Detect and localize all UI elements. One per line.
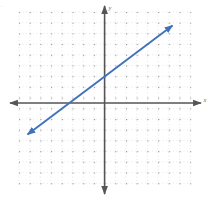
coordinate-plane-figure: y x . (0, 0, 210, 198)
coordinate-plane-chart: y x . (0, 0, 210, 198)
y-axis-label: y (108, 4, 112, 11)
x-axis-label: x (203, 96, 207, 103)
